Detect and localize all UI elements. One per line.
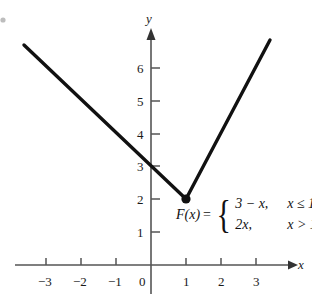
curve-branch-left <box>24 45 186 199</box>
formula-cases: 3 − x, x ≤ 1 2x, x > 1 <box>235 196 312 233</box>
formula-equals-sign: = <box>202 207 214 223</box>
case-2-condition: x > 1 <box>287 217 312 233</box>
y-tick-label-2: 2 <box>137 193 144 206</box>
y-tick-label-6: 6 <box>137 62 144 75</box>
x-tick-label--1: −1 <box>108 275 122 288</box>
x-tick-label-0: 0 <box>139 275 146 288</box>
y-tick-label-4: 4 <box>137 128 144 141</box>
case-2-expression: 2x, <box>235 217 287 233</box>
y-tick-label-3: 3 <box>137 160 144 173</box>
x-tick-label-2: 2 <box>218 275 225 288</box>
y-tick-label-5: 5 <box>137 95 144 108</box>
x-axis-label: x <box>298 258 304 271</box>
edge-artifact-mark <box>0 17 5 22</box>
formula-left-hand-side: F(x) <box>176 207 202 223</box>
x-tick-label--2: −2 <box>73 275 87 288</box>
x-tick-label-1: 1 <box>183 275 190 288</box>
curve-branch-right <box>186 40 270 199</box>
plot-canvas <box>0 0 312 304</box>
x-tick-label-3: 3 <box>253 275 260 288</box>
x-tick-label--3: −3 <box>38 275 52 288</box>
formula-case-row-2: 2x, x > 1 <box>235 217 312 233</box>
y-tick-label-1: 1 <box>137 226 144 239</box>
y-axis-label: y <box>146 12 152 25</box>
formula-case-row-1: 3 − x, x ≤ 1 <box>235 196 312 212</box>
y-axis-ticks <box>151 68 160 232</box>
case-1-condition: x ≤ 1 <box>287 196 312 212</box>
piecewise-formula-annotation: F(x) = { 3 − x, x ≤ 1 2x, x > 1 <box>176 196 312 233</box>
piecewise-function-graph-figure: −3 −2 −1 0 1 2 3 6 5 4 3 2 1 x y F(x) = … <box>0 0 312 304</box>
case-1-expression: 3 − x, <box>235 196 287 212</box>
formula-left-brace: { <box>216 197 230 232</box>
